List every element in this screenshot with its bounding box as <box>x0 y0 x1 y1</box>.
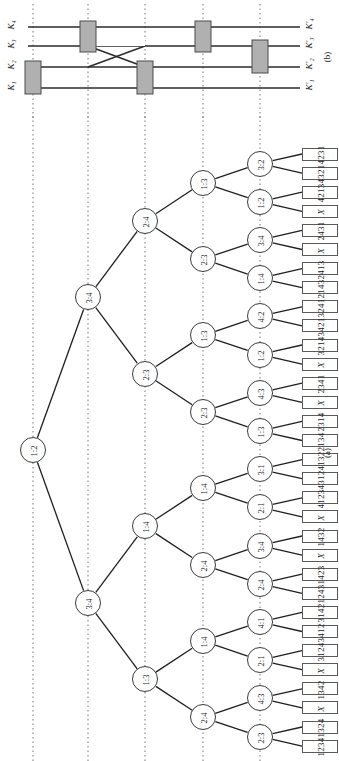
tree-node-label: 2:3 <box>133 362 159 388</box>
tree-leaf-text: 2413 <box>303 263 339 276</box>
tree-leaf-22: X <box>302 549 338 562</box>
tree-leaf-2: 4321 <box>302 167 338 180</box>
tree-leaf-30: X <box>302 701 338 714</box>
tree-leaf-11: 3214 <box>302 339 338 352</box>
tree-node-d3-6: 1:4 <box>190 628 216 654</box>
tree-leaf-28: X <box>302 663 338 676</box>
tree-leaf-13: 2341 <box>302 377 338 390</box>
tree-node-text: 1:4 <box>199 637 209 648</box>
tree-leaf-21: 1432 <box>302 530 338 543</box>
tree-leaf-text: 4213 <box>303 187 339 200</box>
tree-leaf-text: X <box>303 664 339 677</box>
tree-leaf-20: X <box>302 510 338 523</box>
tree-node-label: 2:1 <box>248 495 274 521</box>
network-input-text: K₄ <box>6 20 16 29</box>
tree-leaf-text: 1342 <box>303 683 339 696</box>
tree-node-d4-14: 4:3 <box>247 685 273 711</box>
network-input-label-1: K₁ <box>6 81 15 91</box>
tree-node-d4-1: 1:2 <box>247 189 273 215</box>
tree-leaf-12: X <box>302 358 338 371</box>
tree-leaf-text: 1423 <box>303 569 339 582</box>
tree-leaf-7: 2413 <box>302 262 338 275</box>
tree-node-label: 1:3 <box>191 323 217 349</box>
tree-node-text: 2:4 <box>199 713 209 724</box>
tree-leaf-6: X <box>302 243 338 256</box>
tree-leaf-26: 3412 <box>302 625 338 638</box>
tree-node-d3-2: 1:3 <box>190 322 216 348</box>
tree-leaf-23: 1423 <box>302 568 338 581</box>
tree-node-text: 2:4 <box>199 560 209 571</box>
tree-leaf-text: 4132 <box>303 454 339 467</box>
tree-node-d1-1: 3:4 <box>75 590 101 616</box>
tree-node-label: 2:4 <box>133 209 159 235</box>
tree-leaf-text: 2143 <box>303 282 339 295</box>
tree-node-label: 2:3 <box>248 725 274 751</box>
tree-node-label: 1:4 <box>248 266 274 292</box>
tree-leaf-text: 4312 <box>303 473 339 486</box>
network-input-label-4: K₄ <box>6 20 15 30</box>
tree-leaf-17: 4132 <box>302 453 338 466</box>
network-output-label-2: K′₂ <box>303 59 314 69</box>
tree-leaf-29: 1342 <box>302 682 338 695</box>
tree-node-d4-4: 4:2 <box>247 303 273 329</box>
tree-node-text: 1:2 <box>256 197 266 208</box>
tree-node-label: 2:4 <box>191 553 217 579</box>
tree-leaf-text: 3124 <box>303 645 339 658</box>
tree-leaf-24: 1243 <box>302 587 338 600</box>
tree-node-label: 4:1 <box>248 610 274 636</box>
tree-leaf-text: X <box>303 359 339 372</box>
tree-node-text: 1:3 <box>199 331 209 342</box>
network-input-text: K₃ <box>6 39 16 48</box>
sorting-network-diagram <box>0 0 339 118</box>
tree-leaf-text: 2341 <box>303 378 339 391</box>
tree-node-text: 3:1 <box>256 465 266 476</box>
figure-sorting-network-decision-tree: K₁K₂K₃K₄K′₁K′₂K′₃K′₄ 1:23:43:42:42:31:41… <box>0 0 339 761</box>
tree-node-text: 2:1 <box>256 656 266 667</box>
tree-node-text: 4:3 <box>256 694 266 705</box>
tree-node-text: 2:4 <box>256 579 266 590</box>
tree-node-d4-7: 1:3 <box>247 418 273 444</box>
tree-node-text: 1:4 <box>199 484 209 495</box>
network-output-text: K′₄ <box>304 18 314 29</box>
tree-node-label: 3:1 <box>248 457 274 483</box>
panel-a-label: (a) <box>322 448 332 458</box>
tree-leaf-text: 3142 <box>303 607 339 620</box>
tree-node-text: 1:2 <box>29 446 39 457</box>
tree-node-text: 2:3 <box>141 369 151 380</box>
tree-node-label: 1:3 <box>248 419 274 445</box>
tree-node-text: 2:3 <box>199 255 209 266</box>
tree-node-d4-11: 2:4 <box>247 571 273 597</box>
tree-leaf-18: 4312 <box>302 472 338 485</box>
tree-leaf-text: 2134 <box>303 435 339 448</box>
tree-node-text: 4:1 <box>256 618 266 629</box>
tree-leaf-text: 2431 <box>303 225 339 238</box>
tree-leaf-15: 2314 <box>302 415 338 428</box>
tree-leaf-text: 1243 <box>303 588 339 601</box>
tree-leaf-text: 1432 <box>303 531 339 544</box>
tree-leaf-text: 3421 <box>303 320 339 333</box>
tree-node-label: 3:4 <box>248 228 274 254</box>
tree-node-label: 3:4 <box>248 534 274 560</box>
tree-leaf-text: X <box>303 244 339 257</box>
tree-node-d4-0: 3:2 <box>247 151 273 177</box>
tree-node-text: 4:2 <box>256 312 266 323</box>
tree-node-d0-0: 1:2 <box>20 437 46 463</box>
tree-node-d4-2: 3:4 <box>247 227 273 253</box>
tree-node-d3-1: 2:3 <box>190 246 216 272</box>
tree-leaf-text: X <box>303 206 339 219</box>
panel-b-label: (b) <box>322 52 333 62</box>
network-input-label-2: K₂ <box>6 60 15 70</box>
tree-leaf-3: 4213 <box>302 186 338 199</box>
tree-node-d2-0: 2:4 <box>132 208 158 234</box>
tree-leaf-text: 3241 <box>303 301 339 314</box>
tree-leaf-text: X <box>303 397 339 410</box>
tree-leaf-text: 1234 <box>303 741 339 754</box>
tree-node-d2-3: 1:3 <box>132 666 158 692</box>
tree-node-text: 3:2 <box>256 159 266 170</box>
tree-leaf-4: X <box>302 205 338 218</box>
tree-node-text: 2:3 <box>199 407 209 418</box>
tree-node-text: 3:4 <box>256 541 266 552</box>
tree-node-d3-7: 2:4 <box>190 704 216 730</box>
tree-node-label: 3:4 <box>76 285 102 311</box>
tree-node-d3-0: 1:3 <box>190 170 216 196</box>
